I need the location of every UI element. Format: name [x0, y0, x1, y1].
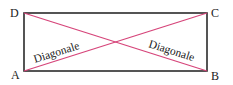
diagonal-label-ac: Diagonale [32, 39, 81, 66]
vertex-label-a: A [11, 68, 20, 82]
vertex-label-d: D [10, 6, 19, 20]
vertex-label-b: B [211, 69, 219, 83]
vertex-label-c: C [211, 6, 219, 20]
rectangle-diagram: D C A B Diagonale Diagonale [0, 0, 233, 85]
